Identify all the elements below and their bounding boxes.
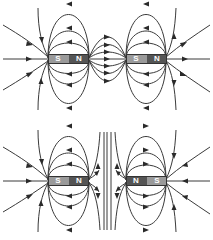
pole-label: S (48, 176, 68, 186)
pole-label: N (147, 54, 167, 64)
pole-label: N (69, 54, 89, 64)
repulsion-field-lines (3, 124, 210, 233)
pole-label: S (126, 54, 146, 64)
pole-label: N (69, 176, 89, 186)
magnetic-field-diagram: S N S N S N N S (0, 0, 213, 240)
attraction-field-lines (3, 2, 210, 111)
field-lines (0, 0, 213, 240)
pole-label: N (126, 176, 146, 186)
pole-label: S (147, 176, 167, 186)
pole-label: S (48, 54, 68, 64)
